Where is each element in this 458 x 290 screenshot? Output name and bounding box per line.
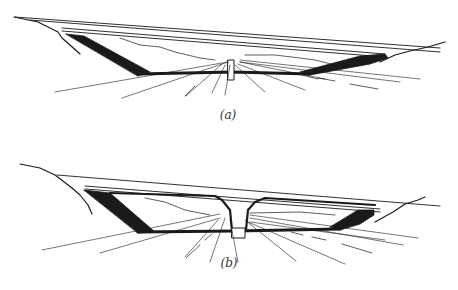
perspective-ray: [240, 60, 420, 79]
dash-mark: [185, 86, 195, 96]
dash-mark: [318, 78, 335, 81]
bridge-diagram-svg: [0, 0, 458, 290]
right-embankment: [375, 197, 425, 222]
dark-strut: [300, 54, 388, 75]
bridge-diagram-figure: (a) (b): [0, 0, 458, 290]
dash-mark: [312, 237, 326, 240]
perspective-ray: [245, 220, 296, 261]
dark-strut: [84, 190, 155, 233]
perspective-ray: [100, 218, 220, 253]
inner-line: [245, 55, 335, 65]
dark-strut: [66, 34, 150, 76]
dash-mark: [205, 234, 212, 240]
dash-mark: [350, 84, 378, 89]
inner-line: [145, 198, 210, 215]
perspective-ray: [186, 64, 222, 96]
perspective-ray: [185, 220, 218, 257]
dash-mark: [186, 245, 200, 258]
panel-a-bridge-drawing: [14, 17, 445, 98]
left-embankment: [20, 164, 92, 214]
inner-line: [250, 212, 335, 215]
inner-line: [120, 38, 215, 60]
perspective-ray: [250, 215, 418, 238]
perspective-ray: [55, 62, 228, 92]
panel-b-bridge-drawing: [20, 164, 440, 264]
dash-mark: [291, 232, 303, 235]
perspective-ray: [235, 65, 265, 92]
center-pier: [232, 228, 245, 238]
caption-a: (a): [220, 108, 237, 122]
caption-b: (b): [220, 256, 237, 270]
dash-mark: [342, 244, 372, 253]
perspective-ray: [212, 65, 225, 93]
